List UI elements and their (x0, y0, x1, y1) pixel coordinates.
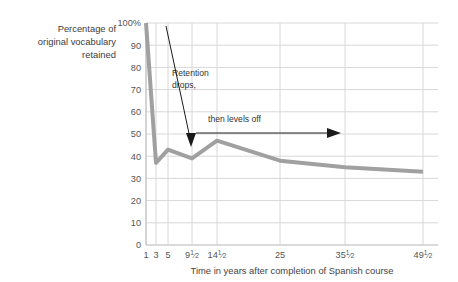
annotation-retention-line-1: Retention (172, 68, 209, 78)
y-tick-label: 20 (131, 196, 141, 206)
y-tick-label: 80 (131, 63, 141, 73)
y-axis-title: Percentage of original vocabulary retain… (8, 22, 116, 62)
x-tick-label: 351⁄2 (336, 249, 355, 260)
y-tick-label: 100% (118, 18, 142, 28)
y-axis-title-line-1: Percentage of (8, 22, 116, 35)
y-axis-tick-labels: 100%9080706050403020100 (118, 18, 142, 250)
x-tick-label: 3 (153, 250, 158, 260)
y-tick-label: 60 (131, 107, 141, 117)
x-tick-label: 491⁄2 (414, 249, 433, 260)
y-tick-label: 70 (131, 85, 141, 95)
y-tick-label: 40 (131, 152, 141, 162)
chart-figure: Percentage of original vocabulary retain… (0, 0, 458, 282)
annotation-retention-line-2: drops, (172, 80, 196, 90)
y-axis-title-line-3: retained (8, 48, 116, 61)
x-tick-label: 25 (275, 250, 285, 260)
x-tick-label: 91⁄2 (185, 249, 199, 260)
x-tick-label: 5 (165, 250, 170, 260)
y-tick-label: 50 (131, 129, 141, 139)
annotation-levels-line-1: then levels off (208, 114, 261, 124)
y-tick-label: 10 (131, 218, 141, 228)
x-tick-label: 141⁄2 (208, 249, 227, 260)
y-tick-label: 90 (131, 41, 141, 51)
x-axis-tick-labels: 13591⁄2141⁄225351⁄2491⁄2 (143, 249, 432, 260)
x-tick-label: 1 (143, 250, 148, 260)
y-tick-label: 30 (131, 174, 141, 184)
y-tick-label: 0 (136, 240, 141, 250)
y-axis-title-line-2: original vocabulary (8, 35, 116, 48)
x-axis-title: Time in years after completion of Spanis… (191, 265, 394, 276)
